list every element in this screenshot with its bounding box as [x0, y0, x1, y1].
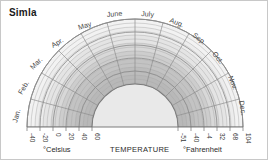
month-label-feb: Feb. — [16, 79, 31, 96]
celsius-tick-labels: -40 -20 0 20 40 60 — [29, 133, 101, 143]
fahrenheit-axis-caption: °Fahrenheit — [183, 145, 222, 154]
celsius-tick-1: -20 — [42, 133, 49, 143]
chart-frame: Simla — [0, 0, 268, 160]
celsius-tick-4: 40 — [81, 133, 88, 141]
fahrenheit-tick-labels: -51 -40 -4 32 68 104 — [180, 133, 252, 144]
polar-temperature-chart: Jan. Feb. Mar. Apr. May June July Aug. S… — [1, 1, 268, 160]
month-label-jan: Jan. — [10, 108, 22, 123]
month-label-mar: Mar. — [28, 55, 44, 71]
celsius-tick-marks — [27, 127, 92, 131]
fahrenheit-tick-0: -51 — [180, 133, 187, 143]
celsius-tick-3: 20 — [68, 133, 75, 141]
fahrenheit-tick-4: 68 — [232, 133, 239, 141]
fahrenheit-tick-1: -40 — [193, 133, 200, 143]
fahrenheit-tick-3: 32 — [219, 133, 226, 141]
fahrenheit-tick-2: -4 — [206, 133, 213, 139]
temperature-axis-caption: TEMPERATURE — [110, 145, 169, 154]
celsius-tick-0: -40 — [29, 133, 36, 143]
month-label-july: July — [141, 9, 155, 19]
fahrenheit-tick-marks — [178, 127, 243, 131]
fahrenheit-tick-5: 104 — [245, 133, 252, 144]
month-label-june: June — [106, 9, 122, 19]
celsius-axis-caption: °Celsius — [43, 145, 71, 154]
celsius-tick-2: 0 — [55, 133, 62, 137]
celsius-tick-5: 60 — [94, 133, 101, 141]
